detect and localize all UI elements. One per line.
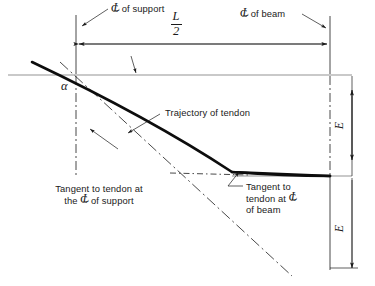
tangent-at-beam-line1: Tangent to (246, 181, 291, 192)
beam-centerline-label: C L of beam (240, 8, 285, 20)
figure-canvas: C L of support C L of beam L 2 α Traject… (0, 0, 375, 286)
leader-beam-centerline (302, 14, 326, 28)
span-denominator: 2 (165, 25, 187, 38)
support-centerline-label-text: of support (119, 3, 164, 14)
centerline-icon: C L (240, 8, 248, 19)
eccentricity-lower-label: E (332, 225, 347, 232)
tangent-at-support-line2-before: the (64, 195, 80, 206)
leader-tangent-at-support (90, 129, 118, 149)
tangent-at-support-line2-after: of support (88, 195, 133, 206)
span-dimension-label: L 2 (165, 10, 187, 38)
eccentricity-upper-label: E (332, 122, 347, 129)
diagram-svg (0, 0, 375, 286)
centerline-icon: C L (80, 195, 88, 206)
angle-alpha-label: α (61, 79, 68, 94)
tangent-at-beam-label: Tangent to tendon at C L of beam (246, 181, 297, 216)
tangent-at-support-line1: Tangent to tendon at (55, 183, 143, 194)
tangent-at-support-label: Tangent to tendon at the C L of support (24, 183, 174, 206)
support-centerline-label: C L of support (111, 3, 164, 15)
trajectory-label: Trajectory of tendon (165, 107, 250, 119)
beam-centerline-label-text: of beam (248, 8, 285, 19)
span-numerator: L (165, 10, 187, 23)
leader-support-centerline (82, 9, 108, 26)
centerline-icon: C L (111, 3, 119, 14)
leader-tangent-at-beam (228, 172, 243, 186)
tangent-at-beam-line2-before: tendon at (246, 193, 289, 204)
tangent-at-beam-line3: of beam (246, 204, 281, 215)
leader-trajectory (128, 114, 160, 133)
tendon-trajectory-curve (32, 62, 330, 176)
centerline-icon: C L (289, 193, 297, 204)
leader-alpha-angle (131, 56, 136, 73)
